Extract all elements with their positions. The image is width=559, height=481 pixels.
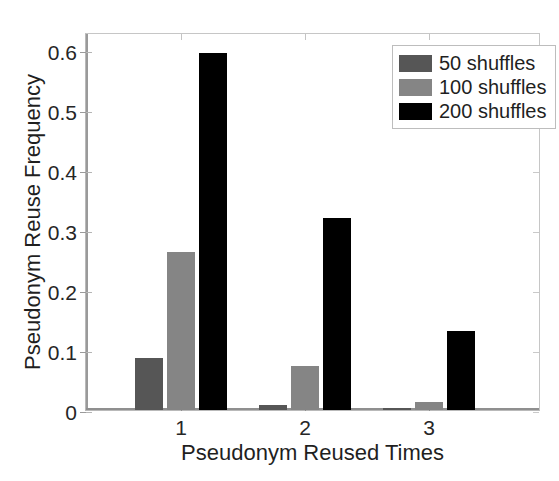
y-axis-tick-label: 0.3 <box>48 222 77 243</box>
y-axis-tick-right <box>533 232 539 233</box>
x-axis-tick-label: 2 <box>299 417 311 438</box>
x-axis-tick-label: 1 <box>175 417 187 438</box>
y-axis-title: Pseudonym Reuse Frequency <box>18 33 48 411</box>
y-axis-tick-inner <box>86 172 92 173</box>
x-axis-tick-top <box>429 34 430 40</box>
legend-row: 200 shuffles <box>399 99 547 123</box>
bar-chart-figure: Pseudonym Reuse Frequency 00.10.20.30.40… <box>0 0 559 481</box>
y-axis-tick-label: 0.4 <box>48 162 77 183</box>
y-axis-tick-label: 0 <box>65 402 77 423</box>
y-axis-tick-inner <box>86 52 92 53</box>
x-axis-tick-label: 3 <box>423 417 435 438</box>
y-axis-tick-right <box>533 352 539 353</box>
bar <box>383 408 411 410</box>
y-axis-tick-inner <box>86 412 92 413</box>
legend-swatch-icon <box>399 55 432 72</box>
y-axis-line <box>86 34 88 410</box>
legend-row: 50 shuffles <box>399 51 547 75</box>
y-axis-tick-inner <box>86 112 92 113</box>
bar <box>167 252 195 410</box>
chart-legend: 50 shuffles100 shuffles200 shuffles <box>392 45 556 129</box>
y-axis-tick-inner <box>86 232 92 233</box>
bar <box>447 331 475 410</box>
legend-row: 100 shuffles <box>399 75 547 99</box>
legend-label: 200 shuffles <box>439 101 547 121</box>
y-axis-tick-inner <box>86 352 92 353</box>
y-axis-tick-label: 0.5 <box>48 102 77 123</box>
bar <box>199 53 227 410</box>
y-axis-tick-right <box>533 412 539 413</box>
bar <box>259 405 287 410</box>
legend-label: 50 shuffles <box>439 53 535 73</box>
bar <box>323 218 351 410</box>
y-axis-tick-label: 0.2 <box>48 282 77 303</box>
legend-swatch-icon <box>399 79 432 96</box>
bar <box>415 402 443 410</box>
x-axis-tick-top <box>305 34 306 40</box>
y-axis-tick-right <box>533 172 539 173</box>
y-axis-tick-label: 0.6 <box>48 42 77 63</box>
y-axis-tick-label: 0.1 <box>48 342 77 363</box>
y-axis-tick-right <box>533 292 539 293</box>
legend-swatch-icon <box>399 103 432 120</box>
bar <box>291 366 319 410</box>
legend-label: 100 shuffles <box>439 77 547 97</box>
y-axis-tick-inner <box>86 292 92 293</box>
x-axis-title: Pseudonym Reused Times <box>85 442 540 464</box>
bar <box>135 358 163 410</box>
x-axis-tick-top <box>181 34 182 40</box>
